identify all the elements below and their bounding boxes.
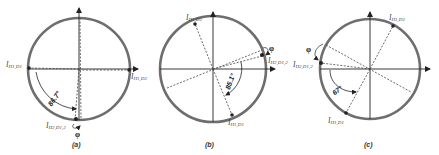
label-h2d12-c: IH2,D1,2 (293, 61, 313, 69)
panel-a (27, 8, 138, 128)
phasor-h1d1-c (346, 69, 370, 113)
panel-c (315, 12, 430, 119)
phi-arc-a (73, 124, 80, 128)
point-h1d2-b (193, 22, 197, 26)
label-h1d2-b: IH1,D2 (186, 14, 202, 22)
panel-b (160, 12, 275, 122)
label-h1d1-a: IH1,D1 (6, 61, 22, 69)
caption-a: (a) (72, 141, 81, 148)
label-h1d2-c: IH1,D2 (389, 14, 405, 22)
phasor-h2b-b (213, 56, 262, 69)
phasor-diagram-canvas (0, 0, 439, 155)
phasor-h2-c (321, 63, 370, 69)
label-h1d1-b: IH1,D1 (228, 119, 244, 127)
caption-c: (c) (364, 141, 373, 148)
point-h1d1-c (344, 111, 348, 115)
phasor-h2-a (75, 69, 79, 120)
phi-label-c: φ (306, 46, 311, 54)
phasor-h1d2-c (370, 26, 393, 69)
point-h2-b (260, 53, 264, 57)
point-h2-a (74, 117, 78, 121)
point-h1d1-b (230, 113, 234, 117)
label-h2d12-b: IH2,D1,2 (268, 57, 288, 65)
phasor-h1d2-b (195, 24, 213, 69)
label-h2d12-a: IH2,D1,2 (46, 122, 66, 130)
phi-label-a: φ (75, 131, 80, 139)
point-h1d1-a (27, 66, 31, 70)
point-h2-c (319, 61, 323, 65)
caption-b: (b) (205, 141, 214, 148)
point-h1d2-c (391, 24, 395, 28)
label-h1d1-c: IH1,D1 (328, 117, 344, 125)
phi-label-b: φ (269, 45, 274, 53)
label-h1d2-a: IH1,D2 (131, 73, 147, 81)
